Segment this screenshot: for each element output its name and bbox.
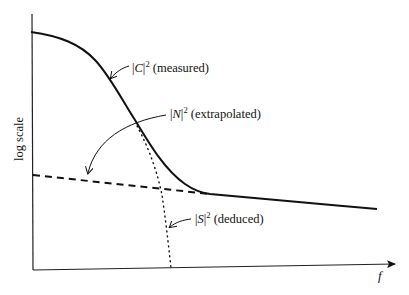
label-extrapolated: |N|2 (extrapolated) — [170, 105, 261, 122]
label-deduced-exponent: 2 — [206, 210, 210, 220]
diagram-svg — [0, 0, 409, 295]
y-axis-label: log scale — [12, 117, 27, 161]
label-deduced: |S|2 (deduced) — [195, 210, 264, 227]
label-extrapolated-symbol: N — [173, 107, 181, 121]
label-extrapolated-note: (extrapolated) — [191, 107, 261, 121]
y-axis — [32, 14, 33, 270]
label-extrapolated-exponent: 2 — [183, 105, 187, 115]
label-measured-symbol: C — [135, 61, 143, 75]
label-measured-exponent: 2 — [145, 59, 149, 69]
deduced-signal-curve — [137, 126, 171, 268]
diagram-canvas: |C|2 (measured) |N|2 (extrapolated) |S|2… — [0, 0, 409, 295]
pointer-arrow-n — [88, 115, 166, 173]
x-axis — [33, 264, 395, 270]
x-axis-label: f — [378, 268, 382, 284]
pointer-arrow-s — [170, 219, 191, 227]
label-measured: |C|2 (measured) — [132, 59, 209, 76]
label-deduced-note: (deduced) — [214, 212, 264, 226]
label-measured-note: (measured) — [153, 61, 209, 75]
extrapolated-noise-line — [33, 175, 210, 194]
pointer-arrow-c — [111, 66, 129, 78]
